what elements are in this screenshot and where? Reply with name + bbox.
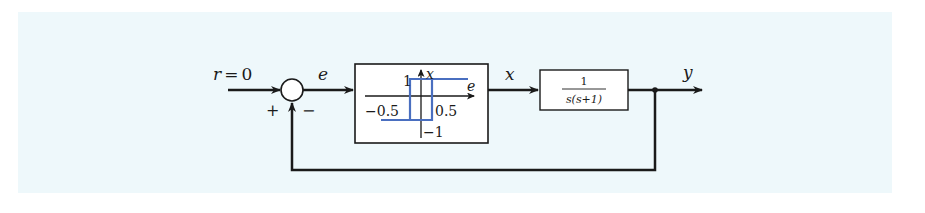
left-switch-label: −0.5 bbox=[365, 103, 399, 119]
summing-junction: + − bbox=[266, 79, 315, 120]
error-signal: e bbox=[303, 64, 353, 90]
plant-numerator: 1 bbox=[581, 75, 588, 88]
plus-sign: + bbox=[266, 101, 279, 120]
right-switch-label: 0.5 bbox=[435, 103, 457, 119]
error-label: e bbox=[318, 64, 328, 84]
nonlinearity-block: x e 1 −1 −0.5 0.5 bbox=[355, 64, 488, 143]
input-label: r=0 bbox=[213, 64, 252, 84]
summing-circle bbox=[281, 79, 303, 101]
x-label: x bbox=[505, 64, 515, 84]
input-signal: r=0 bbox=[213, 64, 280, 90]
level-top-label: 1 bbox=[403, 73, 412, 89]
plant-denominator: s(s+1) bbox=[566, 93, 602, 106]
x-axis-label: x bbox=[426, 66, 434, 82]
plant-block: 1 s(s+1) bbox=[540, 70, 628, 110]
output-signal: y bbox=[628, 62, 702, 93]
intermediate-signal: x bbox=[488, 64, 538, 90]
block-diagram: r=0 + − e x e 1 −1 −0.5 0.5 x 1 bbox=[0, 0, 925, 213]
level-bottom-label: −1 bbox=[423, 124, 444, 140]
minus-sign: − bbox=[302, 101, 315, 120]
output-label: y bbox=[682, 62, 693, 82]
e-axis-label: e bbox=[467, 78, 475, 94]
